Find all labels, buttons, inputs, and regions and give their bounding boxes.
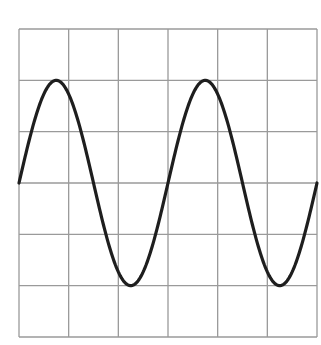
sine-wave-diagram <box>0 0 321 345</box>
